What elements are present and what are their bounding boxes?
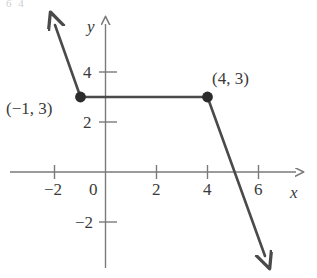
x-axis-label: x (290, 184, 298, 201)
point-minus1-3 (75, 92, 86, 103)
y-tick-label-4: 4 (83, 64, 92, 81)
x-tick-label-4: 4 (203, 181, 212, 198)
graph-figure: 6 4 (0, 0, 317, 278)
right-ray (208, 97, 266, 256)
x-tick-label-0: 0 (89, 181, 98, 198)
x-tick-label-2: 2 (152, 181, 161, 198)
point-4-3 (202, 92, 213, 103)
x-tick-label--2: −2 (44, 181, 62, 198)
y-axis-label: y (87, 18, 95, 35)
x-tick-label-6: 6 (254, 181, 263, 198)
left-point-label: (−1, 3) (6, 100, 52, 117)
left-ray (55, 25, 81, 97)
y-tick-label--2: −2 (75, 214, 93, 231)
right-point-label: (4, 3) (212, 70, 249, 87)
y-axis (99, 24, 117, 268)
y-tick-label-2: 2 (83, 114, 92, 131)
x-axis (10, 165, 296, 179)
coordinate-plane-svg (0, 0, 317, 278)
